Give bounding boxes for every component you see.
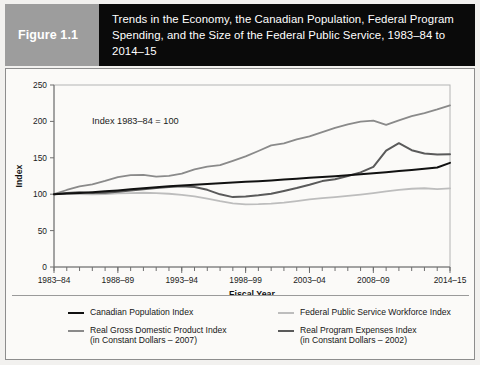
legend-swatch-icon — [278, 312, 294, 314]
legend-label-group: Real Gross Domestic Product Index (in Co… — [90, 325, 227, 346]
legend-item-real-gdp: Real Gross Domestic Product Index (in Co… — [68, 325, 278, 346]
figure-title-block: Trends in the Economy, the Canadian Popu… — [99, 4, 475, 66]
legend-row: Real Gross Domestic Product Index (in Co… — [68, 325, 476, 346]
svg-text:1983–84: 1983–84 — [38, 275, 71, 285]
svg-text:0: 0 — [42, 262, 47, 272]
svg-text:Index: Index — [14, 164, 24, 187]
svg-text:50: 50 — [38, 226, 48, 236]
figure-number-block: Figure 1.1 — [5, 4, 99, 66]
svg-text:2014–15: 2014–15 — [434, 275, 467, 285]
legend-item-canadian-population: Canadian Population Index — [68, 307, 278, 318]
chart-panel: 050100150200250Index1983–841988–891993–9… — [5, 68, 475, 360]
svg-text:1998–99: 1998–99 — [229, 275, 262, 285]
chart-legend: Canadian Population Index Federal Public… — [6, 301, 476, 359]
legend-label: Federal Public Service Workforce Index — [300, 307, 451, 318]
line-chart-plot: 050100150200250Index1983–841988–891993–9… — [6, 69, 474, 295]
legend-row: Canadian Population Index Federal Public… — [68, 307, 476, 318]
svg-text:250: 250 — [33, 80, 47, 90]
svg-text:150: 150 — [33, 153, 47, 163]
legend-label: Canadian Population Index — [90, 307, 193, 318]
legend-swatch-icon — [68, 330, 84, 332]
figure-card: Figure 1.1 Trends in the Economy, the Ca… — [0, 0, 480, 365]
legend-label: Real Gross Domestic Product Index — [90, 325, 227, 335]
legend-item-federal-public-service-workforce: Federal Public Service Workforce Index — [278, 307, 451, 318]
svg-text:Index 1983–84 = 100: Index 1983–84 = 100 — [92, 116, 179, 126]
figure-number-label: Figure 1.1 — [18, 28, 78, 42]
legend-label: Real Program Expenses Index — [300, 325, 417, 335]
svg-text:2003–04: 2003–04 — [293, 275, 326, 285]
svg-text:2008–09: 2008–09 — [357, 275, 390, 285]
svg-text:1993–94: 1993–94 — [165, 275, 198, 285]
figure-title: Trends in the Economy, the Canadian Popu… — [112, 11, 465, 60]
legend-separator — [12, 295, 469, 296]
legend-swatch-icon — [68, 312, 84, 314]
legend-label-group: Real Program Expenses Index (in Constant… — [300, 325, 417, 346]
legend-sublabel: (in Constant Dollars – 2002) — [300, 335, 417, 346]
svg-text:1988–89: 1988–89 — [102, 275, 135, 285]
legend-item-real-program-expenses: Real Program Expenses Index (in Constant… — [278, 325, 417, 346]
figure-header: Figure 1.1 Trends in the Economy, the Ca… — [5, 4, 475, 66]
svg-text:200: 200 — [33, 116, 47, 126]
legend-sublabel: (in Constant Dollars – 2007) — [90, 335, 227, 346]
svg-text:100: 100 — [33, 189, 47, 199]
legend-swatch-icon — [278, 330, 294, 332]
